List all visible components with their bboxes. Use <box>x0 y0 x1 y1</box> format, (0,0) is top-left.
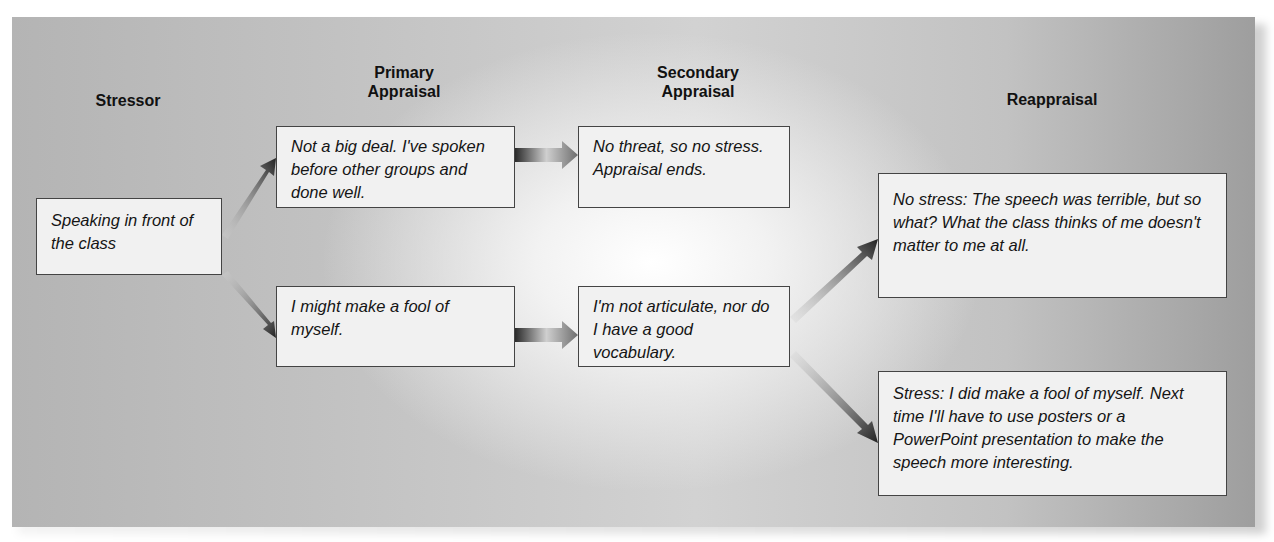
arrow-secondary-to-reappraisal-top <box>790 239 878 323</box>
box-reappraisal-bottom: Stress: I did make a fool of myself. Nex… <box>878 371 1227 496</box>
heading-stressor: Stressor <box>68 91 188 110</box>
box-secondary-appraisal-top: No threat, so no stress. Appraisal ends. <box>578 126 790 208</box>
heading-secondary-line1: Secondary <box>628 63 768 82</box>
diagram-panel: Stressor Primary Appraisal Secondary App… <box>12 17 1255 527</box>
heading-secondary-line2: Appraisal <box>628 82 768 101</box>
arrow-stressor-to-primary-bottom <box>222 271 276 338</box>
heading-reappraisal: Reappraisal <box>972 90 1132 109</box>
heading-primary-line2: Appraisal <box>334 82 474 101</box>
box-reappraisal-top: No stress: The speech was terrible, but … <box>878 173 1227 298</box>
arrow-primary-top-to-secondary-top <box>515 141 578 169</box>
arrow-stressor-to-primary-top <box>222 158 276 239</box>
arrow-primary-bottom-to-secondary-bottom <box>515 321 578 349</box>
heading-secondary-appraisal: Secondary Appraisal <box>628 63 768 101</box>
box-secondary-appraisal-bottom: I'm not articulate, nor do I have a good… <box>578 286 790 367</box>
heading-reappraisal-text: Reappraisal <box>1007 91 1098 108</box>
heading-stressor-text: Stressor <box>96 92 161 109</box>
heading-primary-appraisal: Primary Appraisal <box>334 63 474 101</box>
box-primary-appraisal-bottom: I might make a fool of myself. <box>276 286 515 367</box>
box-stressor: Speaking in front of the class <box>36 198 222 275</box>
arrow-secondary-to-reappraisal-bottom <box>790 351 878 443</box>
box-primary-appraisal-top: Not a big deal. I've spoken before other… <box>276 126 515 208</box>
heading-primary-line1: Primary <box>334 63 474 82</box>
